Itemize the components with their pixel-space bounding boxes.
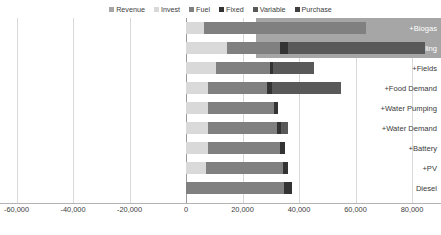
bar-segment-variable — [281, 122, 288, 134]
legend-item-purchase[interactable]: Purchase — [295, 5, 332, 14]
bar-segment-fuel — [204, 22, 366, 34]
bar-segment-fuel — [208, 142, 280, 154]
stacked-bar — [0, 138, 441, 158]
bar-segment-fuel — [216, 62, 270, 74]
legend-swatch-icon — [109, 7, 114, 12]
bar-segment-invest — [186, 62, 216, 74]
x-tick-label: -60,000 — [4, 205, 29, 214]
bar-segment-invest — [186, 22, 204, 34]
legend-swatch-icon — [219, 7, 224, 12]
bar-segment-variable — [272, 82, 341, 94]
bar-segment-fuel — [208, 122, 277, 134]
legend-item-variable[interactable]: Variable — [253, 5, 286, 14]
stacked-bar — [0, 158, 441, 178]
legend-item-label: Variable — [260, 5, 286, 14]
legend-item-fuel[interactable]: Fuel — [189, 5, 210, 14]
stacked-bar — [0, 18, 441, 38]
bar-segment-invest — [186, 82, 208, 94]
x-tick-label: 20,000 — [231, 205, 254, 214]
legend-item-fixed[interactable]: Fixed — [219, 5, 244, 14]
bar-segment-variable — [288, 42, 425, 54]
legend-item-revenue[interactable]: Revenue — [109, 5, 145, 14]
x-tick-label: -20,000 — [117, 205, 142, 214]
stacked-bar — [0, 98, 441, 118]
stacked-bar — [0, 118, 441, 138]
bar-row: +PV — [0, 158, 441, 178]
bar-segment-fuel — [227, 42, 280, 54]
plot-area: +Biogas+Food Selling+Fields+Food Demand+… — [0, 18, 441, 203]
x-tick-label: 0 — [184, 205, 188, 214]
bar-segment-fixed — [274, 102, 278, 114]
bar-segment-invest — [186, 102, 208, 114]
bar-segment-fixed — [284, 182, 292, 194]
legend-item-label: Revenue — [116, 5, 145, 14]
stacked-bar — [0, 78, 441, 98]
bar-row: +Fields — [0, 58, 441, 78]
bar-segment-fixed — [280, 142, 285, 154]
bar-segment-fuel — [206, 162, 283, 174]
bar-row: Diesel — [0, 178, 441, 198]
bar-row: +Biogas — [0, 18, 441, 38]
bar-segment-fuel — [208, 102, 274, 114]
x-axis-line — [0, 203, 441, 204]
x-tick-label: -40,000 — [60, 205, 85, 214]
bar-segment-variable — [273, 62, 314, 74]
legend-item-invest[interactable]: Invest — [154, 5, 180, 14]
chart-legend: RevenueInvestFuelFixedVariablePurchase — [0, 3, 441, 15]
legend-swatch-icon — [253, 7, 258, 12]
legend-item-label: Fixed — [226, 5, 244, 14]
bar-segment-fuel — [186, 182, 284, 194]
bar-chart: RevenueInvestFuelFixedVariablePurchase +… — [0, 0, 441, 235]
legend-item-label: Fuel — [196, 5, 210, 14]
stacked-bar — [0, 38, 441, 58]
legend-swatch-icon — [154, 7, 159, 12]
x-axis-ticks: -60,000-40,000-20,000020,00040,00060,000… — [0, 205, 441, 221]
bar-row: +Food Demand — [0, 78, 441, 98]
bar-row: +Water Demand — [0, 118, 441, 138]
stacked-bar — [0, 178, 441, 198]
x-tick-label: 60,000 — [344, 205, 367, 214]
legend-swatch-icon — [189, 7, 194, 12]
bar-row: +Water Pumping — [0, 98, 441, 118]
bar-segment-fuel — [208, 82, 267, 94]
bar-segment-fixed — [283, 162, 288, 174]
x-tick-label: 40,000 — [288, 205, 311, 214]
legend-item-label: Purchase — [302, 5, 332, 14]
legend-swatch-icon — [295, 7, 300, 12]
bar-segment-fixed — [280, 42, 288, 54]
bar-row: +Food Selling — [0, 38, 441, 58]
x-tick-label: 80,000 — [401, 205, 424, 214]
bar-rows: +Biogas+Food Selling+Fields+Food Demand+… — [0, 18, 441, 203]
bar-row: +Battery — [0, 138, 441, 158]
bar-segment-invest — [186, 162, 206, 174]
stacked-bar — [0, 58, 441, 78]
legend-item-label: Invest — [161, 5, 180, 14]
bar-segment-invest — [186, 42, 227, 54]
bar-segment-invest — [186, 122, 208, 134]
bar-segment-invest — [186, 142, 208, 154]
